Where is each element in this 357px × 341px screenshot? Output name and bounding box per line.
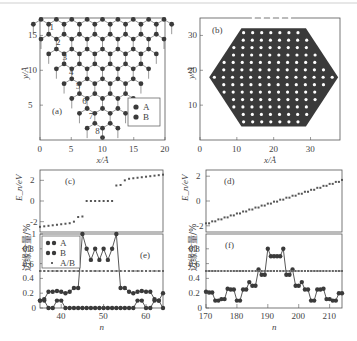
energy-point bbox=[205, 222, 207, 224]
hole bbox=[259, 53, 262, 56]
series-point bbox=[281, 247, 285, 251]
series-point bbox=[306, 287, 310, 291]
atom bbox=[85, 66, 90, 71]
series-a-b bbox=[205, 270, 343, 272]
x-tick-label: 20 bbox=[269, 144, 279, 154]
legend-marker bbox=[52, 251, 56, 255]
panel-label: (e) bbox=[140, 250, 150, 260]
hole bbox=[303, 76, 306, 79]
hole bbox=[223, 61, 226, 64]
atom bbox=[108, 22, 113, 27]
legend-marker bbox=[46, 251, 50, 255]
hole bbox=[250, 61, 253, 64]
series-point bbox=[210, 290, 214, 294]
atom bbox=[100, 17, 105, 22]
energy-point bbox=[149, 175, 151, 177]
energy-point bbox=[282, 199, 284, 201]
y-axis-label: y/Å bbox=[186, 67, 196, 80]
x-axis-label: x/Å bbox=[263, 155, 276, 165]
series-edge bbox=[204, 247, 344, 303]
atom bbox=[77, 52, 82, 57]
series-point bbox=[135, 290, 139, 294]
energy-point bbox=[242, 210, 244, 212]
y-tick-label: 2 bbox=[196, 171, 201, 181]
atom bbox=[108, 111, 113, 116]
series-point bbox=[114, 306, 118, 310]
atom bbox=[131, 47, 136, 52]
atom bbox=[115, 17, 120, 22]
hole bbox=[232, 53, 235, 56]
atom bbox=[85, 126, 90, 131]
panel-label: (f) bbox=[225, 240, 234, 250]
row-label: 7 bbox=[89, 111, 94, 121]
atom bbox=[139, 32, 144, 37]
x-tick-label: 50 bbox=[99, 311, 109, 321]
y-tick-label: 2 bbox=[30, 175, 35, 185]
legend-label: A bbox=[143, 102, 150, 112]
series-point bbox=[297, 284, 301, 288]
series-point bbox=[157, 298, 161, 302]
row-label: 1 bbox=[49, 22, 54, 32]
hole bbox=[251, 31, 254, 34]
hole bbox=[313, 91, 316, 94]
energy-point bbox=[245, 210, 247, 212]
legend-marker bbox=[52, 241, 56, 245]
hole bbox=[260, 128, 263, 131]
atom bbox=[77, 32, 82, 37]
series-point bbox=[340, 291, 344, 295]
hole bbox=[232, 98, 235, 101]
series-point bbox=[118, 306, 122, 310]
atom bbox=[69, 17, 74, 22]
hole bbox=[269, 31, 272, 34]
atom bbox=[123, 111, 128, 116]
atom bbox=[62, 81, 67, 86]
energy-point bbox=[111, 200, 113, 202]
y-tick-label: 0 bbox=[196, 196, 201, 206]
hole bbox=[249, 76, 252, 79]
panel-a-lattice-triangle: 123456780510152051015x/Åy/Å(a)AB bbox=[20, 17, 174, 165]
hole bbox=[287, 113, 290, 116]
atom bbox=[131, 37, 136, 42]
energy-point bbox=[162, 174, 164, 176]
hole bbox=[296, 105, 299, 108]
energy-point bbox=[295, 195, 297, 197]
hole bbox=[277, 98, 280, 101]
atom bbox=[100, 37, 105, 42]
hole bbox=[295, 83, 298, 86]
hole bbox=[277, 68, 280, 71]
atom bbox=[169, 22, 174, 27]
atom bbox=[162, 17, 167, 22]
row-label: 6 bbox=[82, 96, 87, 106]
series-point bbox=[135, 298, 139, 302]
y-tick-label: 1 bbox=[32, 229, 37, 239]
atom bbox=[154, 52, 159, 57]
series-point bbox=[76, 306, 80, 310]
atom bbox=[85, 37, 90, 42]
x-tick-label: 15 bbox=[129, 144, 139, 154]
energy-point bbox=[217, 218, 219, 220]
hole bbox=[268, 61, 271, 64]
energy-point bbox=[270, 203, 272, 205]
hole bbox=[259, 105, 262, 108]
atom bbox=[139, 81, 144, 86]
figure: 123456780510152051015x/Åy/Å(a)AB 0102030… bbox=[0, 0, 357, 341]
atom bbox=[92, 62, 97, 67]
series-point bbox=[51, 290, 55, 294]
series-point bbox=[127, 306, 131, 310]
plot-frame-c bbox=[40, 170, 163, 232]
hole bbox=[267, 68, 270, 71]
x-tick-label: 210 bbox=[322, 311, 336, 321]
y-axis-label: E_n/eV bbox=[180, 173, 190, 202]
atom bbox=[115, 126, 120, 131]
series-point bbox=[80, 306, 84, 310]
energy-point bbox=[211, 220, 213, 222]
hole bbox=[286, 91, 289, 94]
hole bbox=[232, 61, 235, 64]
energy-point bbox=[103, 200, 105, 202]
hole bbox=[313, 68, 316, 71]
hole bbox=[313, 61, 316, 64]
hole bbox=[259, 91, 262, 94]
energy-point bbox=[158, 174, 160, 176]
series-point bbox=[334, 298, 338, 302]
series-point bbox=[42, 297, 46, 301]
